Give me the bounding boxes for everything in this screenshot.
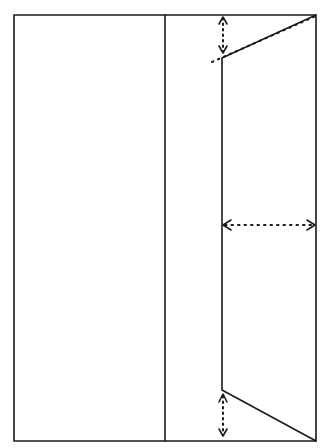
diagram-canvas	[0, 0, 323, 448]
top-vertical-arrow	[219, 17, 227, 53]
trapezoid-panel	[222, 15, 316, 441]
middle-horizontal-arrow	[223, 220, 315, 230]
bottom-vertical-arrow	[219, 394, 227, 436]
